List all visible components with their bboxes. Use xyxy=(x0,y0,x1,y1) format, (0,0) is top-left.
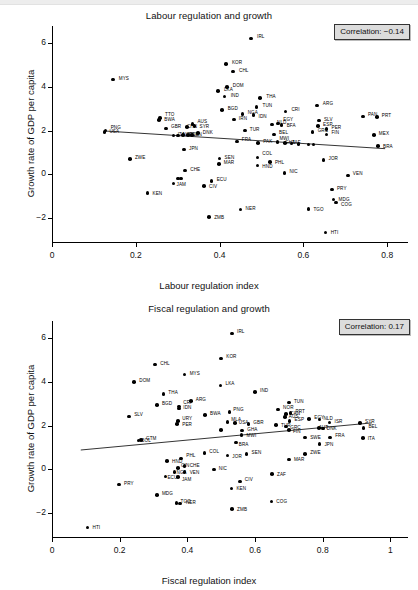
data-point-label: BRA xyxy=(383,145,393,150)
data-point xyxy=(235,140,239,144)
x-tick xyxy=(52,243,53,247)
data-point-label: ESP xyxy=(295,418,305,423)
data-point-label: SLV xyxy=(134,413,143,418)
data-point-label: ZWE xyxy=(310,451,321,456)
data-point xyxy=(240,429,244,433)
data-point xyxy=(238,480,242,484)
data-point-label: ZMB xyxy=(237,508,247,513)
x-tick xyxy=(255,538,256,542)
data-point xyxy=(375,115,379,119)
x-tick-label: 0.6 xyxy=(235,545,275,555)
data-point-label: THA xyxy=(266,95,276,100)
data-point-label: PRY xyxy=(337,187,347,192)
data-point-label: CIV xyxy=(245,478,253,483)
data-point-label: PRY xyxy=(124,482,134,487)
data-point-label: USA xyxy=(109,130,119,135)
data-point xyxy=(175,422,179,426)
data-point-label: KEN xyxy=(236,487,246,492)
data-point xyxy=(182,148,186,152)
y-tick-label: 2 xyxy=(18,420,46,430)
data-point xyxy=(231,70,235,74)
data-point-label: SEN xyxy=(252,451,262,456)
data-point-label: CHL xyxy=(160,362,170,367)
data-point-label: URY xyxy=(182,417,192,422)
data-point xyxy=(283,415,287,419)
data-point-label: GBR xyxy=(171,125,181,130)
data-point-label: BRA xyxy=(239,443,249,448)
x-tick-label: 0.8 xyxy=(303,545,343,555)
data-point-label: MYS xyxy=(119,77,129,82)
plot-area-labour: −2024600.20.40.60.8IRLKORCHLMYSDOMLKAIND… xyxy=(52,30,404,242)
data-point-label: CHN xyxy=(187,125,197,130)
data-point-label: PHL xyxy=(275,161,284,166)
data-point-label: IRN xyxy=(239,117,247,122)
data-point xyxy=(372,133,376,137)
data-point-label: PER xyxy=(182,423,192,428)
data-point-label: TUN xyxy=(294,400,304,405)
data-point xyxy=(155,403,159,407)
x-axis-line xyxy=(52,537,408,538)
data-point-label: COL xyxy=(209,450,219,455)
data-point-label: MDG xyxy=(162,492,173,497)
data-point xyxy=(234,441,238,445)
data-point-label: NER xyxy=(246,207,256,212)
data-point-label: KEN xyxy=(153,192,163,197)
data-point-label: NER xyxy=(186,501,196,506)
data-point-label: MAR xyxy=(294,458,305,463)
chart-panel-labour: Labour regulation and growth Correlation… xyxy=(0,0,418,295)
data-point-label: BWA xyxy=(164,118,175,123)
y-tick-label: 0 xyxy=(18,168,46,178)
data-point-label: THA xyxy=(168,391,178,396)
data-point xyxy=(276,408,280,412)
data-point xyxy=(203,451,207,455)
data-point xyxy=(132,380,136,384)
x-tick-label: 0.4 xyxy=(167,545,207,555)
data-point-label: ISR xyxy=(335,420,343,425)
data-point xyxy=(361,115,365,119)
data-point-label: MAR xyxy=(224,161,235,166)
data-point-label: SYR xyxy=(199,125,209,130)
data-point-label: BEL xyxy=(368,425,377,430)
data-point xyxy=(256,141,260,145)
x-axis-label-labour: Labour regulation index xyxy=(0,280,418,291)
x-tick xyxy=(187,538,188,542)
data-point-label: DOM xyxy=(233,84,244,89)
data-point-label: DNK xyxy=(203,131,213,136)
x-tick xyxy=(52,538,53,542)
data-point-label: JPN xyxy=(324,443,333,448)
data-point-label: IND xyxy=(231,94,239,99)
y-tick-label: 2 xyxy=(18,125,46,135)
data-point xyxy=(243,129,247,133)
data-point xyxy=(346,174,350,178)
data-point xyxy=(328,436,332,440)
data-point-label: CAN xyxy=(192,133,202,138)
data-point-label: BGD xyxy=(228,107,238,112)
y-tick-label: −2 xyxy=(18,212,46,222)
data-point-label: ECU xyxy=(217,178,227,183)
data-point xyxy=(255,105,259,109)
data-point-label: BGD xyxy=(162,402,172,407)
data-point-label: TGO xyxy=(313,208,323,213)
data-point xyxy=(297,142,301,146)
data-point-label: NIC xyxy=(219,467,227,472)
data-point-label: CHE xyxy=(190,464,200,469)
data-point-label: JPN xyxy=(189,147,198,152)
data-point xyxy=(361,436,365,440)
data-point-label: AUT xyxy=(319,426,329,431)
data-point-label: IRL xyxy=(257,35,264,40)
data-point xyxy=(155,493,159,497)
data-point xyxy=(247,422,251,426)
data-point-label: ZMB xyxy=(214,216,224,221)
x-tick xyxy=(303,243,304,247)
data-point-label: BWA xyxy=(210,412,221,417)
data-point-label: FIN xyxy=(331,131,339,136)
x-axis-label-fiscal: Fiscal regulation index xyxy=(0,575,418,586)
data-point xyxy=(274,423,278,427)
data-point xyxy=(219,428,223,432)
data-point-label: IRL xyxy=(237,330,244,335)
data-point xyxy=(230,332,234,336)
data-point-label: NIC xyxy=(290,170,298,175)
data-point-label: FRA xyxy=(242,138,252,143)
data-point-label: GIN xyxy=(181,464,189,469)
data-point-label: CHE xyxy=(190,168,200,173)
